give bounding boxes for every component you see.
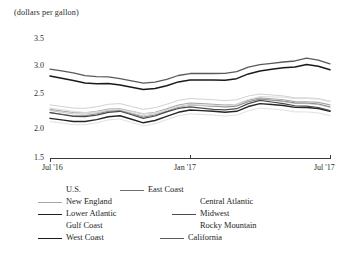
plot-area: [50, 30, 330, 158]
legend-label-us: U.S.: [66, 186, 81, 194]
x-tick-mark-jul16: [50, 158, 51, 162]
y-tick-label-3-0: 3.0: [20, 61, 44, 70]
legend-item-west-coast: West Coast: [38, 234, 104, 242]
legend-item-california: California: [160, 234, 222, 242]
legend-swatch-west-coast: [38, 238, 62, 239]
legend-label-gulf-coast: Gulf Coast: [66, 222, 103, 230]
legend-swatch-california: [160, 238, 184, 239]
legend-item-us: U.S.: [38, 186, 81, 194]
legend-swatch-east-coast: [120, 190, 144, 191]
legend-swatch-new-england: [38, 202, 62, 203]
chart-legend: U.S. New England Lower Atlantic Gulf Coa…: [0, 186, 361, 248]
legend-label-lower-atlantic: Lower Atlantic: [66, 210, 116, 218]
y-tick-label-2-0: 2.0: [20, 124, 44, 133]
series-gulf-coast: [50, 108, 330, 126]
series-west-coast: [50, 65, 330, 90]
y-tick-label-2-5: 2.5: [20, 89, 44, 98]
x-tick-label-jan17: Jan '17: [174, 163, 196, 172]
legend-item-gulf-coast: Gulf Coast: [38, 222, 103, 230]
y-axis-unit-label: (dollars per gallon): [14, 8, 79, 17]
chart-figure: (dollars per gallon) 3.5 3.0 2.5 2.0 1.5…: [0, 0, 361, 253]
legend-item-east-coast: East Coast: [120, 186, 184, 194]
legend-item-central-atlantic: Central Atlantic: [172, 198, 253, 206]
x-tick-label-jul16: Jul '16: [42, 163, 63, 172]
y-tick-label-1-5: 1.5: [20, 153, 44, 162]
series-lines: [50, 30, 330, 158]
x-tick-label-jul17: Jul '17: [314, 163, 335, 172]
legend-label-west-coast: West Coast: [66, 234, 104, 242]
legend-label-california: California: [188, 234, 222, 242]
series-east-coast: [50, 99, 330, 117]
legend-item-rocky-mountain: Rocky Mountain: [172, 222, 257, 230]
legend-item-lower-atlantic: Lower Atlantic: [38, 210, 116, 218]
x-tick-mark-jan17: [190, 155, 191, 159]
legend-item-midwest: Midwest: [172, 210, 229, 218]
legend-label-east-coast: East Coast: [148, 186, 184, 194]
y-tick-label-3-5: 3.5: [20, 34, 44, 43]
legend-label-rocky-mountain: Rocky Mountain: [200, 222, 257, 230]
legend-swatch-lower-atlantic: [38, 214, 62, 215]
legend-item-new-england: New England: [38, 198, 112, 206]
legend-swatch-midwest: [172, 214, 196, 215]
legend-label-midwest: Midwest: [200, 210, 229, 218]
x-tick-mark-jul17: [330, 155, 331, 159]
legend-label-central-atlantic: Central Atlantic: [200, 198, 253, 206]
legend-label-new-england: New England: [66, 198, 112, 206]
